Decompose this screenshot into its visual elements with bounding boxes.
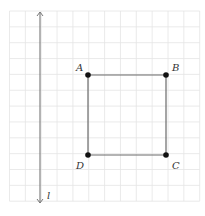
line-l: l: [37, 12, 50, 203]
grid: [10, 11, 200, 201]
vertex-point-a: [85, 72, 91, 78]
vertex-points: [85, 72, 169, 158]
vertex-point-c: [163, 152, 169, 158]
square-abcd: A B C D: [75, 62, 180, 171]
vertex-point-d: [85, 152, 91, 158]
vertex-label-d: D: [75, 160, 84, 171]
line-l-label: l: [47, 190, 50, 201]
vertex-label-c: C: [172, 160, 180, 171]
square-edges: [88, 75, 166, 155]
vertex-label-b: B: [171, 62, 179, 73]
vertex-label-a: A: [75, 62, 83, 73]
coordinate-grid-diagram: l A B C D: [0, 0, 205, 216]
vertex-point-b: [163, 72, 169, 78]
